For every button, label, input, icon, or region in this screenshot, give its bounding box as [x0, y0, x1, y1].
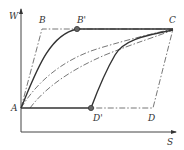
x-axis-label: S	[167, 137, 173, 147]
label-b: B	[38, 15, 46, 25]
unloading-curve	[21, 30, 173, 108]
label-c: C	[169, 15, 176, 25]
point-d-prime-marker	[88, 105, 93, 110]
intermediate-curve-upper	[21, 29, 173, 108]
label-b-prime: B'	[76, 15, 86, 25]
intermediate-curve-lower	[30, 30, 173, 108]
loading-curve	[21, 29, 173, 108]
label-d: D	[147, 113, 155, 123]
load-displacement-diagram: W S A B B' C D D'	[0, 0, 184, 150]
label-d-prime: D'	[92, 113, 103, 123]
point-b-prime-marker	[74, 26, 79, 31]
label-a: A	[10, 103, 18, 113]
ideal-path-abcd	[21, 29, 173, 108]
y-axis-label: W	[9, 11, 19, 21]
